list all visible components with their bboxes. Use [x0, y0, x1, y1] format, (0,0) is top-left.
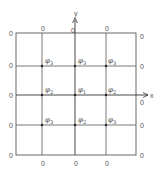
- node-label-phi: φ2: [78, 117, 86, 126]
- node-label-phi: φ3: [108, 117, 116, 126]
- x-axis-label: x: [150, 92, 154, 99]
- boundary-label-right: 0: [140, 63, 144, 70]
- boundary-box: [16, 33, 136, 155]
- node-label-phi: φ2: [108, 87, 116, 96]
- node-label-phi: φ1: [78, 87, 86, 96]
- boundary-label-left: 0: [9, 122, 13, 129]
- node-label-phi: φ3: [45, 58, 53, 67]
- boundary-label-left: 0: [9, 92, 13, 99]
- node-label-phi: φ3: [45, 117, 53, 126]
- boundary-label-right: 0: [140, 99, 144, 106]
- node-label-phi: φ3: [108, 58, 116, 67]
- boundary-label-left: 0: [9, 62, 13, 69]
- boundary-label-top: 0: [41, 25, 45, 32]
- node-label-phi: φ3: [78, 58, 86, 67]
- boundary-label-right: 0: [140, 152, 144, 159]
- boundary-label-top: 0: [105, 25, 109, 32]
- boundary-label-right: 0: [140, 33, 144, 40]
- boundary-label-left: 0: [9, 30, 13, 37]
- node-label-phi: φ2: [45, 87, 53, 96]
- boundary-label-left: 0: [9, 152, 13, 159]
- boundary-label-bottom: 0: [105, 160, 109, 167]
- boundary-label-bottom: 0: [74, 160, 78, 167]
- boundary-label-right: 0: [140, 122, 144, 129]
- boundary-label-bottom: 0: [41, 160, 45, 167]
- y-axis-label: y: [74, 10, 78, 17]
- boundary-label-top: 0: [71, 27, 75, 34]
